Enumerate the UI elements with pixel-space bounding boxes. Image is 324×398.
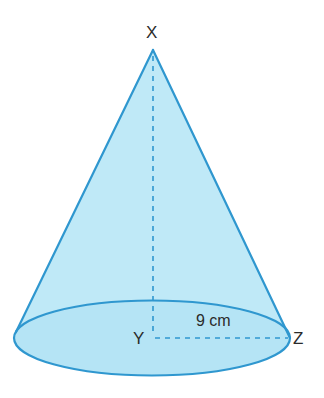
center-label-y: Y [133,330,144,347]
cone-diagram [0,0,324,398]
apex-label-x: X [146,24,157,41]
rim-label-z: Z [293,330,303,347]
radius-label: 9 cm [196,313,231,329]
